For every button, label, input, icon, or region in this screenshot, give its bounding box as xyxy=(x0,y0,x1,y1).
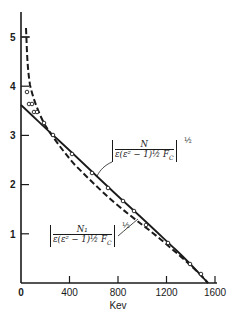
svg-text:5: 5 xyxy=(10,32,16,43)
svg-text:4: 4 xyxy=(10,81,16,92)
x-axis-label: Kev xyxy=(109,300,126,311)
svg-text:3: 3 xyxy=(10,130,16,141)
formula-denominator: ε(ε² − 1)½ FC xyxy=(53,235,112,246)
upper-formula-annotation: N ε(ε² − 1)½ FC xyxy=(112,140,177,162)
y-tick-labels: 1 2 3 4 5 xyxy=(10,32,16,240)
formula-denominator: ε(ε² − 1)½ FC xyxy=(115,150,174,161)
svg-text:1: 1 xyxy=(10,229,16,240)
svg-text:0: 0 xyxy=(18,287,24,298)
svg-text:2: 2 xyxy=(10,179,16,190)
svg-text:1200: 1200 xyxy=(155,287,178,298)
svg-text:400: 400 xyxy=(61,287,78,298)
lower-formula-exponent: ½ xyxy=(122,221,130,230)
data-points xyxy=(25,90,203,276)
svg-text:800: 800 xyxy=(110,287,127,298)
svg-text:1600: 1600 xyxy=(204,287,227,298)
x-tick-labels: 0 400 800 1200 1600 xyxy=(18,287,226,298)
upper-leader-line xyxy=(97,162,112,176)
upper-formula-exponent: ½ xyxy=(184,136,192,145)
x-ticks xyxy=(70,276,216,283)
lower-formula-annotation: N₁ ε(ε² − 1)½ FC xyxy=(50,225,115,247)
